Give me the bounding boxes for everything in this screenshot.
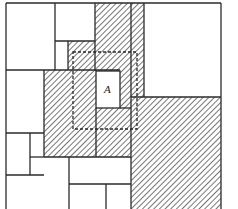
partition-diagram: A	[0, 0, 238, 209]
hatched-regions	[44, 3, 221, 209]
hatched-bottom-right	[131, 97, 221, 209]
hatched-narrow-column	[131, 3, 144, 97]
hatched-top-column	[95, 3, 131, 71]
hatched-small-block	[68, 41, 95, 70]
label-a: A	[103, 83, 111, 95]
